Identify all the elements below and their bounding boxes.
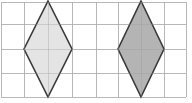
grid-diagram: [0, 0, 192, 103]
grid-lines-overlay: [1, 2, 187, 98]
